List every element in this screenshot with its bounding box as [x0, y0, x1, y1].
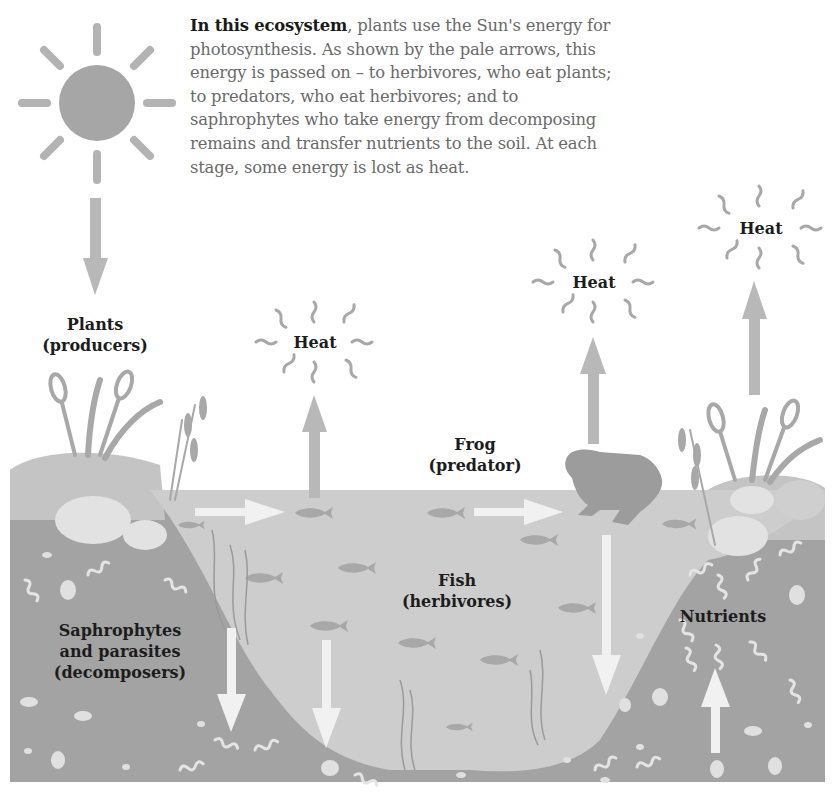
nutrients-label: Nutrients: [668, 606, 778, 627]
heat-label-2: Heat: [569, 272, 619, 293]
frog-label: Frog (predator): [415, 434, 535, 476]
decomposers-label: Saphrophytes and parasites (decomposers): [40, 620, 200, 683]
decomposers-label-role: (decomposers): [40, 662, 200, 683]
intro-paragraph: In this ecosystem, plants use the Sun's …: [190, 14, 630, 179]
plants-label-role: (producers): [40, 335, 150, 356]
plants-label: Plants (producers): [40, 314, 150, 356]
frog-label-role: (predator): [415, 455, 535, 476]
plants-label-title: Plants: [40, 314, 150, 335]
heat-label-1: Heat: [290, 332, 340, 353]
fish-label-title: Fish: [397, 570, 517, 591]
decomposers-label-sub: and parasites: [40, 641, 200, 662]
intro-lead: In this ecosystem: [190, 16, 347, 35]
sun-icon: [22, 27, 172, 180]
fish-label-role: (herbivores): [397, 591, 517, 612]
decomposers-label-title: Saphrophytes: [40, 620, 200, 641]
frog-label-title: Frog: [415, 434, 535, 455]
sun-energy-arrow-icon: [83, 198, 108, 295]
fish-label: Fish (herbivores): [397, 570, 517, 612]
heat-label-3: Heat: [736, 218, 786, 239]
ecosystem-diagram: In this ecosystem, plants use the Sun's …: [0, 0, 839, 799]
intro-body: , plants use the Sun's energy for photos…: [190, 16, 611, 177]
heat-squiggle-icon: [256, 186, 821, 382]
